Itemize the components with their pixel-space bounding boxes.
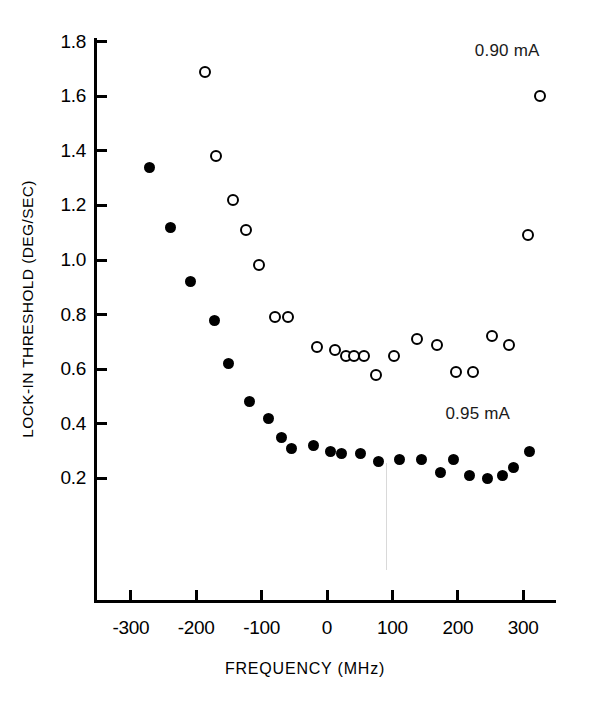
data-point-filled [263,413,274,424]
data-point-filled [435,467,446,478]
y-tick [97,204,107,207]
data-point-open [431,339,443,351]
data-point-open [329,344,341,356]
data-point-filled [448,454,459,465]
x-tick-label: 100 [357,618,427,637]
x-tick-label: 300 [488,618,558,637]
annotation-current-095: 0.95 mA [445,404,510,424]
data-point-open [388,350,400,362]
data-point-filled [497,470,508,481]
scan-artifact-line [386,463,387,570]
data-point-open [370,369,382,381]
x-tick [522,590,525,600]
x-axis-line [94,600,556,603]
x-tick-label: 200 [423,618,493,637]
y-tick [97,259,107,262]
data-point-filled [165,222,176,233]
y-tick-label: 1.2 [40,195,86,214]
y-tick-label: 1.4 [40,141,86,160]
data-point-filled [223,358,234,369]
data-point-filled [325,446,336,457]
x-axis-title: FREQUENCY (MHz) [150,660,460,678]
data-point-filled [144,162,155,173]
data-point-filled [185,276,196,287]
y-tick-label: 1.0 [40,250,86,269]
y-tick-label: 1.6 [40,86,86,105]
data-point-filled [464,470,475,481]
y-tick [97,477,107,480]
data-point-open [486,330,498,342]
y-tick [97,40,107,43]
data-point-open [311,341,323,353]
data-point-open [522,229,534,241]
data-point-filled [482,473,493,484]
y-tick-label: 0.6 [40,359,86,378]
y-tick [97,95,107,98]
y-tick-label: 0.8 [40,305,86,324]
data-point-open [411,333,423,345]
x-tick [129,590,132,600]
y-tick-label: 0.2 [40,468,86,487]
data-point-open [210,150,222,162]
data-point-filled [209,315,220,326]
data-point-open [358,350,370,362]
data-point-open [503,339,515,351]
y-tick-label: 1.8 [40,32,86,51]
data-point-open [227,194,239,206]
data-point-open [269,311,281,323]
x-tick [391,590,394,600]
annotation-current-090: 0.90 mA [475,41,540,61]
data-point-open [534,90,546,102]
x-tick [456,590,459,600]
y-axis-title: LOCK-IN THRESHOLD (DEG/SEC) [19,144,37,474]
data-point-filled [244,396,255,407]
x-tick-label: 0 [292,618,362,637]
data-point-open [240,224,252,236]
data-point-filled [394,454,405,465]
y-tick-label: 0.4 [40,414,86,433]
x-tick [195,590,198,600]
data-point-open [253,259,265,271]
y-tick [97,149,107,152]
data-point-filled [373,456,384,467]
x-tick-label: -300 [96,618,166,637]
y-tick [97,313,107,316]
data-point-open [450,366,462,378]
x-tick-label: -100 [227,618,297,637]
data-point-filled [508,462,519,473]
data-point-open [282,311,294,323]
y-tick [97,422,107,425]
data-point-filled [336,448,347,459]
x-tick [326,590,329,600]
data-point-open [467,366,479,378]
data-point-filled [524,446,535,457]
data-point-filled [308,440,319,451]
y-tick [97,368,107,371]
figure-canvas: 0.20.40.60.81.01.21.41.61.8 -300-200-100… [0,0,594,705]
x-tick-label: -200 [161,618,231,637]
x-tick [260,590,263,600]
data-point-filled [416,454,427,465]
y-axis-line [94,38,97,603]
data-point-open [199,66,211,78]
data-point-filled [355,448,366,459]
data-point-filled [276,432,287,443]
data-point-filled [286,443,297,454]
